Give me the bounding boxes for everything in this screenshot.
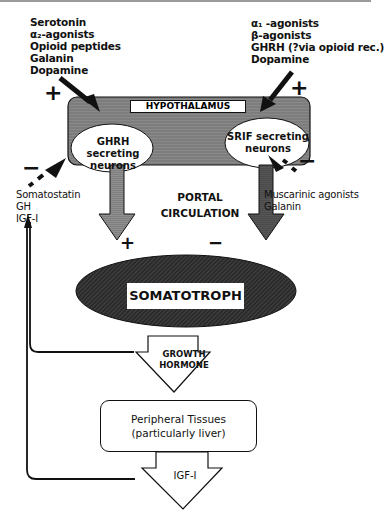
ghrh-inhibitor-item: GH <box>16 201 80 213</box>
ghrh-minus-sign: − <box>22 157 40 179</box>
growth-hormone-label: GROWTH HORMONE <box>154 349 214 371</box>
ghrh-neurons-label: GHRH secreting neurons <box>72 136 154 172</box>
igf-label: IGF-I <box>160 470 210 482</box>
ghrh-neurons-line1: GHRH secreting <box>72 136 154 160</box>
portal-line1: PORTAL <box>160 189 240 205</box>
srif-stimulator-list: α₁ -agonists β-agonists GHRH (?via opioi… <box>251 17 384 65</box>
ghrh-stimulator-item: α₂-agonists <box>30 28 121 40</box>
somatotroph-label: SOMATOTROPH <box>127 283 244 309</box>
ghrh-stimulator-item: Galanin <box>30 52 121 64</box>
srif-neurons-line1: SRIF secreting <box>226 131 310 143</box>
portal-circulation-label: PORTAL CIRCULATION <box>160 189 240 221</box>
ghrh-stimulator-item: Opioid peptides <box>30 40 121 52</box>
ghrh-effect-plus-sign: + <box>120 232 135 254</box>
srif-inhibitor-item: Muscarinic agonists <box>264 189 359 201</box>
hypothalamus-label: HYPOTHALAMUS <box>130 100 246 113</box>
ghrh-stimulator-item: Dopamine <box>30 64 121 76</box>
srif-effect-minus-sign: − <box>208 232 223 254</box>
growth-hormone-line1: GROWTH <box>154 349 214 360</box>
ghrh-inhibitor-item: Somatostatin <box>16 189 80 201</box>
ghrh-neurons-line2: neurons <box>72 160 154 172</box>
ghrh-portal-arrow <box>99 165 135 240</box>
srif-inhibitor-item: Galanin <box>264 201 359 213</box>
portal-line2: CIRCULATION <box>160 205 240 221</box>
srif-stimulator-item: Dopamine <box>251 53 384 65</box>
ghrh-stimulator-item: Serotonin <box>30 16 121 28</box>
peripheral-line2: (particularly liver) <box>101 426 256 440</box>
ghrh-stimulator-list: Serotonin α₂-agonists Opioid peptides Ga… <box>30 16 121 76</box>
ghrh-inhibitor-item: IGF-I <box>16 213 80 225</box>
srif-plus-sign: + <box>290 77 308 99</box>
srif-stimulator-item: GHRH (?via opioid rec.) <box>251 41 384 53</box>
srif-stimulator-item: α₁ -agonists <box>251 17 384 29</box>
srif-inhibitor-list: Muscarinic agonists Galanin <box>264 189 359 213</box>
ghrh-plus-sign: + <box>44 82 62 104</box>
growth-hormone-line2: HORMONE <box>154 360 214 371</box>
srif-stimulator-item: β-agonists <box>251 29 384 41</box>
peripheral-tissues-box: Peripheral Tissues (particularly liver) <box>100 400 257 452</box>
ghrh-inhibitor-list: Somatostatin GH IGF-I <box>16 189 80 225</box>
srif-minus-sign: − <box>298 150 316 172</box>
peripheral-line1: Peripheral Tissues <box>101 412 256 426</box>
